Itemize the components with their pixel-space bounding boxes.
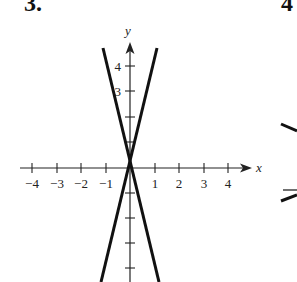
- y-tick-label: 4: [115, 59, 122, 74]
- next-graph-fragment: [281, 124, 297, 201]
- line-positive-slope: [101, 48, 157, 282]
- y-axis-label: y: [123, 23, 131, 38]
- x-tick-label: 3: [201, 176, 208, 191]
- x-tick-label: −2: [74, 176, 88, 191]
- x-axis-label: x: [255, 160, 262, 175]
- x-axis: −4 −3 −2 −1 1 2 3 4 x: [20, 160, 262, 191]
- x-tick-label: −1: [99, 176, 113, 191]
- x-tick-label: 1: [152, 176, 159, 191]
- line-negative-slope: [103, 48, 159, 282]
- x-tick-label: 4: [225, 176, 232, 191]
- x-tick-label: 2: [176, 176, 183, 191]
- x-tick-label: −4: [25, 176, 39, 191]
- x-tick-label: −3: [50, 176, 64, 191]
- graph: −4 −3 −2 −1 1 2 3 4 x 4 3 y: [0, 0, 297, 282]
